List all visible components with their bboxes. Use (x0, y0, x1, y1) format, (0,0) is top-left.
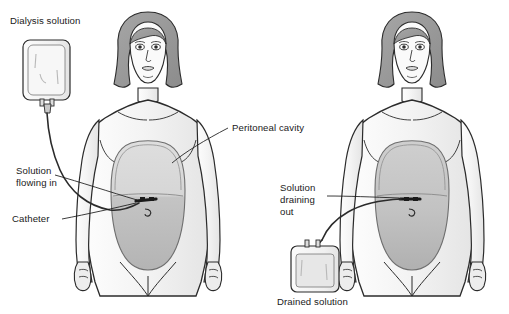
label-solution-draining-out-line2: draining (280, 194, 315, 205)
bag-port-left (40, 99, 44, 106)
label-peritoneal-cavity: Peritoneal cavity (232, 122, 304, 133)
cavity-fill (375, 141, 449, 270)
catheter-connector-b (413, 197, 418, 201)
left-figure-head (114, 12, 182, 87)
tube-clamp (44, 104, 51, 113)
mouth (142, 67, 154, 71)
peritoneal-dialysis-figure: Dialysis solution Solution flowing in Ca… (0, 0, 509, 314)
label-catheter: Catheter (12, 213, 50, 224)
catheter-connector-a (404, 197, 409, 201)
left-peritoneal-cavity (111, 141, 185, 270)
left-pupil (402, 45, 406, 49)
label-solution-flowing-in-line2: flowing in (16, 177, 57, 188)
label-solution-draining-out-line1: Solution (280, 182, 315, 193)
right-pupil (418, 45, 422, 49)
bag-port-right (316, 240, 320, 247)
right-panel-group: Solution draining out Drained solution (277, 12, 486, 307)
figure-canvas: Dialysis solution Solution flowing in Ca… (0, 0, 509, 314)
bag-inner (28, 45, 65, 95)
dialysis-solution-bag (23, 40, 70, 113)
catheter-connector-a (140, 197, 145, 201)
bag-port-left (305, 240, 309, 247)
right-figure-head (378, 12, 446, 87)
left-panel-group: Dialysis solution Solution flowing in Ca… (10, 12, 304, 296)
label-dialysis-solution: Dialysis solution (10, 15, 80, 26)
drained-solution-bag (291, 240, 339, 292)
cavity-fill (111, 141, 185, 270)
label-solution-draining-out-line3: out (280, 206, 294, 217)
right-peritoneal-cavity (375, 141, 449, 270)
label-drained-solution: Drained solution (277, 296, 348, 307)
mouth (406, 67, 418, 71)
catheter-connector-b (149, 197, 154, 201)
right-pupil (154, 45, 158, 49)
left-pupil (138, 45, 142, 49)
label-solution-flowing-in-line1: Solution (16, 165, 51, 176)
